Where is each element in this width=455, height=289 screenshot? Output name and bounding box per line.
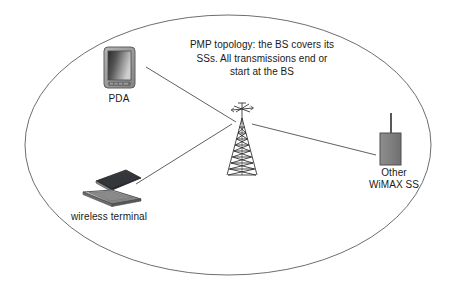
pda-device-icon	[104, 47, 135, 88]
topology-caption: PMP topology: the BS covers its SSs. All…	[186, 38, 338, 79]
other-wimax-ss-label: Other WiMAX SS	[348, 167, 440, 191]
wireless-terminal-label: wireless terminal	[44, 211, 174, 223]
other-wimax-ss-label-line2: WiMAX SS	[348, 179, 440, 191]
other-wimax-ss-label-line1: Other	[348, 167, 440, 179]
pda-label: PDA	[89, 93, 149, 105]
diagram-canvas: PMP topology: the BS covers its SSs. All…	[0, 0, 455, 289]
